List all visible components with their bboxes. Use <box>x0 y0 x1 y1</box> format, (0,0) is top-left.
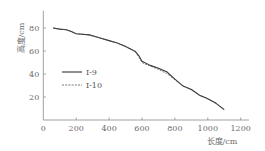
legend: Ⅰ-9Ⅰ-10 <box>62 68 102 90</box>
legend-label: Ⅰ-9 <box>86 68 97 77</box>
x-tick-label: 400 <box>101 124 116 133</box>
y-tick-label: 40 <box>29 70 39 79</box>
axes <box>43 11 249 120</box>
x-tick-label: 800 <box>167 124 182 133</box>
y-tick-label: 20 <box>29 93 39 102</box>
x-tick-label: 1200 <box>231 124 251 133</box>
legend-label: Ⅰ-10 <box>86 81 102 90</box>
line-chart: 020040060080010001200 20406080 Ⅰ-9Ⅰ-10 长… <box>0 0 265 151</box>
x-tick-label: 600 <box>134 124 149 133</box>
y-tick-label: 80 <box>29 24 39 33</box>
y-axis-title: 高度/cm <box>16 22 26 53</box>
x-axis-title: 长度/cm <box>207 136 238 146</box>
series-line-i-9 <box>53 28 224 110</box>
series-layer <box>53 28 224 110</box>
series-line-i-10 <box>53 28 224 110</box>
x-tick-label: 200 <box>69 124 84 133</box>
x-tick-label: 1000 <box>198 124 218 133</box>
x-tick-label: 0 <box>41 124 46 133</box>
y-tick-label: 60 <box>29 47 39 56</box>
